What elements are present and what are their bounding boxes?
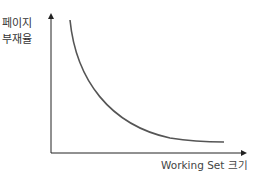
x-axis-label: Working Set 크기 [161, 157, 248, 172]
page-fault-curve [70, 20, 224, 142]
chart-canvas [0, 0, 263, 182]
